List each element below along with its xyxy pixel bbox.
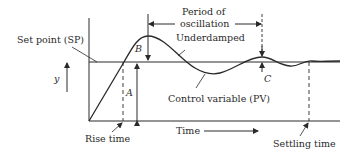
settling-time-label: Settling time [273, 139, 336, 149]
response-curve [89, 36, 340, 121]
underdamped-leader [178, 50, 185, 56]
set-point-leader [72, 47, 97, 62]
set-point-label: Set point (SP) [17, 35, 84, 45]
b-label: B [135, 44, 142, 54]
period-label-line1: Period of [182, 7, 225, 17]
a-label: A [126, 88, 133, 98]
pv-leader [196, 74, 205, 88]
time-label: Time [176, 126, 200, 136]
control-variable-label: Control variable (PV) [168, 94, 270, 104]
c-label: C [264, 74, 271, 84]
rise-time-label: Rise time [85, 134, 130, 144]
control-response-diagram: Set point (SP) Period of oscillation Und… [0, 0, 357, 159]
period-label-line2: oscillation [180, 19, 229, 29]
underdamped-label: Underdamped [176, 33, 245, 43]
y-axis-label: y [54, 74, 59, 84]
settling-time-pointer-arrow [300, 123, 308, 136]
rise-time-pointer-arrow [112, 123, 122, 132]
